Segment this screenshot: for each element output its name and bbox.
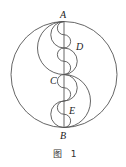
- point-label-d: D: [76, 42, 83, 52]
- point-label-c: C: [50, 76, 57, 86]
- semicircle-ac: [38, 22, 65, 75]
- figure-caption: 图 1: [53, 149, 80, 159]
- geometry-figure: [0, 0, 126, 167]
- point-label-b: B: [60, 131, 66, 141]
- semicircle-cb: [64, 75, 91, 128]
- point-label-e: E: [69, 106, 75, 116]
- point-label-a: A: [60, 10, 66, 20]
